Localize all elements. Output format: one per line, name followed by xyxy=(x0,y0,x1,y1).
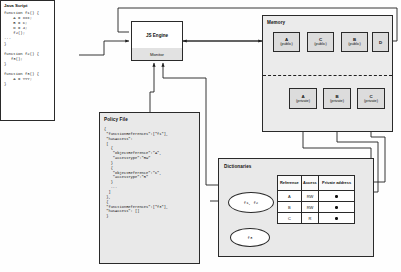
dictionary-node-f3: f3 xyxy=(230,228,270,247)
memory-cell-public-b: B (public) xyxy=(341,32,368,52)
policy-file-json: { "functionReferences":["f1"], "hasAcces… xyxy=(104,127,196,219)
dictionaries-title: Dictionaries xyxy=(224,164,252,169)
table-row: C R xyxy=(278,213,355,224)
cell-private-address xyxy=(319,202,355,213)
table-header-row: Reference Access Private address xyxy=(278,176,355,191)
address-dot-icon xyxy=(335,206,337,208)
dictionary-node-label: f3 xyxy=(248,236,253,240)
wire-policy-to-monitor xyxy=(150,63,154,112)
memory-cell-qualifier: (private) xyxy=(296,99,310,104)
memory-cell-qualifier: (public) xyxy=(348,42,360,47)
memory-cell-public-c: C (public) xyxy=(307,32,334,52)
cell-reference: B xyxy=(278,202,302,213)
table-row: B RW xyxy=(278,202,355,213)
dictionary-node-label: f1, f2 xyxy=(244,201,258,205)
js-engine-label: JS Engine xyxy=(146,33,168,38)
js-engine-box: JS Engine Monitor xyxy=(131,21,183,61)
cell-reference: C xyxy=(278,213,302,224)
column-header-access: Access xyxy=(301,176,318,191)
cell-access: RW xyxy=(301,191,318,202)
dictionary-node-f1-f2: f1, f2 xyxy=(228,192,274,213)
cell-private-address xyxy=(319,213,355,224)
memory-cell-private-b: B (private) xyxy=(323,88,351,109)
cell-reference: A xyxy=(278,191,302,202)
cell-access: RW xyxy=(301,202,318,213)
memory-cell-name: D xyxy=(379,40,382,45)
address-dot-icon xyxy=(335,217,337,219)
monitor-box: Monitor xyxy=(132,48,182,60)
memory-cell-private-a: A (private) xyxy=(289,88,317,109)
memory-cell-qualifier: (public) xyxy=(314,42,326,47)
address-dot-icon xyxy=(335,195,337,197)
cell-private-address xyxy=(319,191,355,202)
memory-cell-d: D xyxy=(372,32,389,52)
javascript-source-code: function f1() { A = xxx; B = C; D = 4; f… xyxy=(4,11,52,87)
table-row: A RW xyxy=(278,191,355,202)
column-header-reference: Reference xyxy=(278,176,302,191)
memory-panel-title: Memory xyxy=(267,20,285,25)
memory-cell-qualifier: (private) xyxy=(330,99,344,104)
policy-file-title: Policy File xyxy=(104,117,128,122)
memory-cell-qualifier: (private) xyxy=(364,99,378,104)
memory-cell-qualifier: (public) xyxy=(280,42,292,47)
architecture-diagram: Java Script function f1() { A = xxx; B =… xyxy=(0,0,401,272)
cell-access: R xyxy=(301,213,318,224)
memory-cell-private-c: C (private) xyxy=(357,88,385,109)
wire-js-to-engine xyxy=(79,41,129,55)
monitor-label: Monitor xyxy=(150,52,164,57)
column-header-private-address: Private address xyxy=(319,176,355,191)
memory-cell-public-a: A (public) xyxy=(273,32,300,52)
javascript-panel-title: Java Script xyxy=(4,3,27,8)
js-engine-header: JS Engine xyxy=(132,22,182,49)
dictionary-permissions-table: Reference Access Private address A RW B … xyxy=(277,175,355,224)
memory-public-private-divider xyxy=(263,75,392,76)
